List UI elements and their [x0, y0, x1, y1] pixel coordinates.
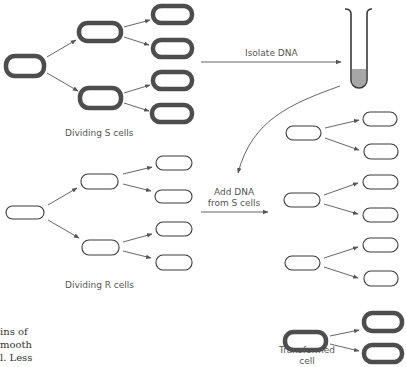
r-cell-lineage [6, 156, 192, 270]
label-transformed-line1: Transformed [272, 345, 342, 356]
s-cell-gen2-1 [153, 6, 192, 23]
label-transformed-cell: Transformed cell [272, 345, 342, 367]
r-cell-gen2-4 [156, 255, 192, 270]
label-isolate-dna: Isolate DNA [245, 48, 298, 59]
s-cell-gen2-4 [152, 105, 192, 122]
r-cell-parent [6, 206, 44, 219]
r-cell-gen2-1 [156, 156, 192, 170]
s-cell-lineage [6, 6, 192, 122]
s-cell-arrows [47, 20, 150, 111]
mixed-culture-r-cells [284, 112, 398, 286]
transformed-daughter-2 [364, 345, 402, 362]
label-add-dna: Add DNA from S cells [205, 187, 263, 209]
dna-extract-liquid [352, 69, 366, 87]
label-add-dna-line1: Add DNA [205, 187, 263, 198]
label-transformed-line2: cell [272, 356, 342, 367]
label-dividing-r-cells: Dividing R cells [65, 280, 134, 291]
r-cell-gen2-2 [155, 190, 192, 203]
s-cell-parent [6, 56, 44, 76]
r-cell-gen1-bottom [82, 240, 119, 255]
s-cell-gen2-2 [153, 40, 192, 57]
griffith-transformation-diagram [0, 0, 406, 367]
r-cell-gen1-top [81, 174, 118, 189]
s-cell-gen2-3 [153, 72, 192, 89]
label-add-dna-line2: from S cells [205, 198, 263, 209]
test-tube [345, 9, 372, 88]
transformed-daughter-1 [364, 313, 402, 331]
caption-line-3-text: l. Less [0, 351, 32, 364]
caption-line-1-text: ins of [0, 325, 28, 338]
label-dividing-s-cells: Dividing S cells [65, 128, 134, 139]
mixed-culture-arrows [324, 120, 359, 351]
r-cell-gen2-3 [156, 222, 192, 236]
r-cell-arrows [48, 167, 152, 258]
add-dna-curve-arrow [238, 86, 340, 173]
s-cell-gen1-top [79, 23, 121, 41]
caption-line-2-text: mooth [0, 338, 32, 351]
s-cell-gen1-bottom [80, 88, 121, 108]
